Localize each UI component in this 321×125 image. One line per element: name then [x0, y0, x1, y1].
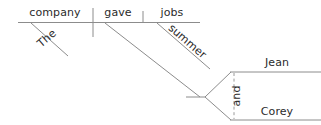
sentence-diagram-canvas: ThecompanygavejobssummerJeanandCorey: [0, 0, 321, 125]
diagram-word-corey: Corey: [261, 105, 294, 118]
diagram-word-jobs: jobs: [160, 6, 184, 19]
sentence-diagram-svg: ThecompanygavejobssummerJeanandCorey: [0, 0, 321, 125]
diagram-word-and: and: [230, 86, 243, 107]
diagram-word-company: company: [29, 6, 81, 19]
diagram-word-the: The: [34, 27, 59, 51]
diagram-word-jean: Jean: [264, 56, 289, 69]
diagram-word-gave: gave: [104, 6, 132, 19]
diagram-line-fork-upper: [205, 72, 231, 97]
diagram-line-fork-lower: [205, 97, 231, 120]
diagram-word-summer: summer: [166, 21, 210, 61]
